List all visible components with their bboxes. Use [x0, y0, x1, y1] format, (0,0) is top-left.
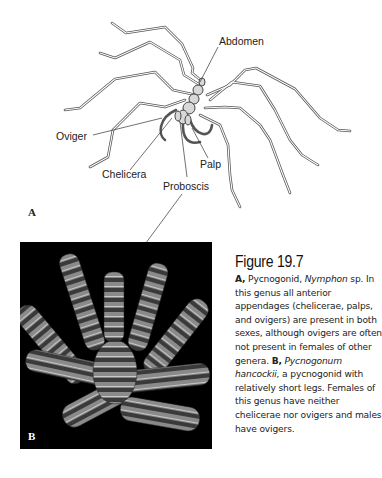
panel-b-letter: B [28, 430, 35, 442]
pycnogonid-line-drawing [0, 0, 382, 250]
specimen-illustration [20, 242, 212, 449]
label-palp: Palp [200, 158, 221, 170]
label-chelicera: Chelicera [102, 168, 146, 180]
caption-body: A, Pycnogonid, Nymphon sp. In this genus… [235, 273, 382, 436]
pycnogonum-photo: B [20, 242, 212, 449]
figure-title: Figure 19.7 [235, 253, 364, 271]
figure-caption: Figure 19.7 A, Pycnogonid, Nymphon sp. I… [235, 253, 382, 436]
caption-a-text-1: Pycnogonid, [245, 274, 304, 284]
panel-a-letter: A [28, 206, 36, 218]
label-proboscis: Proboscis [163, 180, 209, 192]
label-abdomen: Abdomen [219, 35, 264, 47]
caption-a-text-2: sp. In this genus all anterior appendage… [235, 274, 382, 366]
label-oviger: Oviger [56, 130, 87, 142]
caption-b-marker: B, [272, 356, 282, 366]
caption-a-genus: Nymphon [305, 274, 348, 284]
caption-a-marker: A, [235, 274, 245, 284]
